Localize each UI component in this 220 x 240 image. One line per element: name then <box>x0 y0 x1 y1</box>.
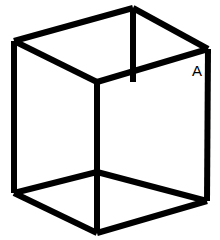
right-vertical-edge <box>207 49 208 201</box>
cube-label-group: A <box>192 62 202 79</box>
vertex-label-a: A <box>192 62 202 79</box>
cube-figure-canvas: A <box>0 0 220 240</box>
cube-wireframe-drawing: A <box>0 0 220 240</box>
